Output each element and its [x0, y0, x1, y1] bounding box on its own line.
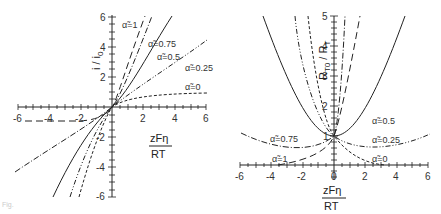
left-ytick: 4 [100, 42, 106, 53]
left-xtick: -2 [75, 113, 84, 124]
svg-text:i / i0: i / i0 [90, 51, 105, 70]
left-xtick: -6 [13, 113, 22, 124]
label-alpha-1: α̃=1 [122, 20, 137, 30]
label-alpha-0: α̃=0 [372, 154, 387, 164]
figure-caption: Fig. [2, 201, 14, 208]
label-alpha-025: α̃=0.25 [185, 63, 213, 73]
right-ytick: 5 [322, 11, 328, 22]
label-alpha-05: α̃=0.5 [157, 52, 180, 62]
right-curve-labels: α̃=0.5 α̃=0.75 α̃=0.25 α̃=1 α̃=0 [270, 116, 400, 164]
right-chart [240, 16, 430, 180]
left-xtick: 6 [203, 113, 209, 124]
right-tick-labels: -6 -4 -2 0 2 4 6 5 4 3 2 1 [235, 11, 431, 182]
right-curve-alpha-075 [241, 16, 345, 148]
right-xtick: -6 [235, 171, 244, 182]
right-xtick: 4 [393, 171, 399, 182]
right-ytick: 1 [323, 131, 329, 142]
left-ylabel: i / i0 [90, 51, 105, 70]
label-alpha-075: α̃=0.75 [270, 134, 298, 144]
left-ytick: -2 [96, 132, 105, 143]
label-alpha-1: α̃=1 [272, 154, 287, 164]
right-xtick: 0 [331, 171, 337, 182]
left-ytick: -4 [96, 162, 105, 173]
left-ytick: -6 [96, 191, 105, 202]
right-xtick: 6 [425, 171, 431, 182]
left-xlabel: zFη RT [149, 132, 172, 160]
figure-canvas: -6 -4 -2 2 4 6 6 4 2 -2 -4 -6 α̃=1 α̃=0.… [0, 0, 441, 214]
label-alpha-05: α̃=0.5 [372, 116, 395, 126]
left-curve-alpha-1 [25, 16, 145, 121]
right-xtick: -4 [266, 171, 275, 182]
left-ytick: 6 [100, 12, 106, 23]
right-xlabel: zFη RT [322, 184, 346, 212]
left-chart [15, 15, 207, 197]
right-ytick: 2 [322, 101, 328, 112]
label-alpha-0: α̃=0 [185, 82, 200, 92]
label-alpha-075: α̃=0.75 [148, 39, 176, 49]
svg-text:RT0 / RT: RT0 / RT [317, 41, 332, 80]
left-xtick: 4 [172, 113, 178, 124]
svg-text:zFη: zFη [323, 184, 341, 196]
left-ytick: 2 [100, 72, 106, 83]
right-xtick: -2 [297, 171, 306, 182]
right-curve-alpha-025 [295, 16, 430, 147]
left-curve-labels: α̃=1 α̃=0.75 α̃=0.5 α̃=0.25 α̃=0 [122, 20, 213, 92]
svg-text:RT: RT [151, 148, 166, 160]
left-xtick: -4 [44, 113, 53, 124]
label-alpha-025: α̃=0.25 [372, 135, 400, 145]
left-xtick: 2 [140, 113, 146, 124]
right-ylabel: RT0 / RT [317, 41, 332, 80]
svg-text:zFη: zFη [150, 132, 168, 144]
right-xtick: 2 [362, 171, 368, 182]
svg-text:RT: RT [324, 200, 339, 212]
left-curve-alpha-075 [15, 16, 152, 172]
